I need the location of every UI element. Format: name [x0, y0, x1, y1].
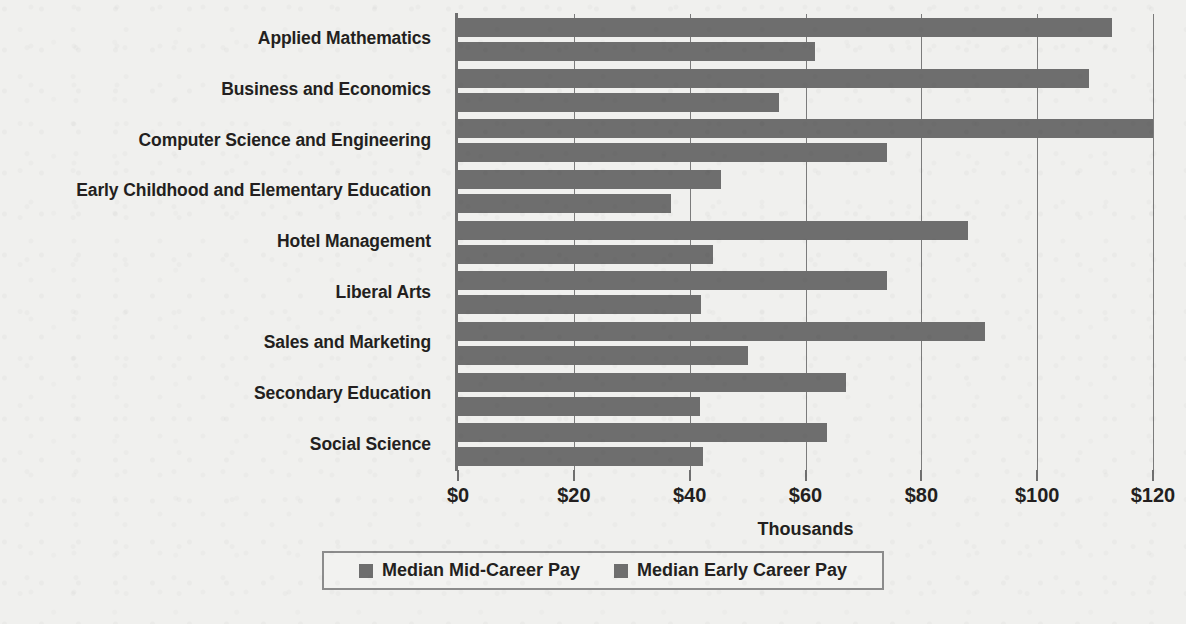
category-label: Liberal Arts — [336, 284, 431, 302]
legend-swatch-icon — [614, 564, 628, 578]
bar — [458, 322, 985, 341]
legend-swatch-icon — [359, 564, 373, 578]
bar — [458, 143, 887, 162]
bar — [458, 69, 1089, 88]
bar — [458, 194, 671, 213]
legend-label: Median Mid-Career Pay — [382, 560, 580, 581]
bar-chart: Applied MathematicsBusiness and Economic… — [0, 0, 1186, 624]
x-axis-tick — [1036, 470, 1038, 481]
category-label: Hotel Management — [277, 233, 431, 251]
x-axis-tick-label: $20 — [557, 484, 590, 507]
legend-item[interactable]: Median Early Career Pay — [614, 560, 847, 581]
category-label: Social Science — [310, 436, 431, 454]
bar — [458, 245, 713, 264]
bar — [458, 170, 721, 189]
bar — [458, 271, 887, 290]
x-axis-tick — [689, 470, 691, 481]
plot-area — [458, 14, 1153, 470]
x-axis-tick — [457, 470, 459, 481]
x-axis-tick-label: $100 — [1015, 484, 1060, 507]
x-axis-tick — [573, 470, 575, 481]
bar — [458, 18, 1112, 37]
gridline — [1153, 14, 1154, 470]
category-label: Computer Science and Engineering — [139, 132, 431, 150]
bar — [458, 447, 703, 466]
category-label: Business and Economics — [221, 81, 431, 99]
x-axis-tick-label: $0 — [447, 484, 469, 507]
chart-legend: Median Mid-Career PayMedian Early Career… — [322, 551, 884, 590]
bar — [458, 346, 748, 365]
bar — [458, 42, 815, 61]
category-label: Secondary Education — [254, 385, 431, 403]
category-label: Sales and Marketing — [264, 335, 431, 353]
legend-item[interactable]: Median Mid-Career Pay — [359, 560, 580, 581]
bar — [458, 93, 779, 112]
bar — [458, 373, 846, 392]
x-axis-tick — [920, 470, 922, 481]
x-axis-tick — [1152, 470, 1154, 481]
bar — [458, 119, 1153, 138]
x-axis-tick-label: $80 — [905, 484, 938, 507]
bar — [458, 295, 701, 314]
bar — [458, 397, 700, 416]
x-axis-title: Thousands — [458, 519, 1153, 540]
x-axis: $0$20$40$60$80$100$120 — [458, 470, 1153, 516]
bar — [458, 221, 968, 240]
bar — [458, 423, 827, 442]
x-axis-tick — [805, 470, 807, 481]
x-axis-tick-label: $40 — [673, 484, 706, 507]
legend-label: Median Early Career Pay — [637, 560, 847, 581]
x-axis-tick-label: $120 — [1131, 484, 1176, 507]
category-label: Applied Mathematics — [258, 31, 431, 49]
category-label: Early Childhood and Elementary Education — [76, 183, 431, 201]
x-axis-tick-label: $60 — [789, 484, 822, 507]
category-axis-labels: Applied MathematicsBusiness and Economic… — [0, 14, 443, 470]
